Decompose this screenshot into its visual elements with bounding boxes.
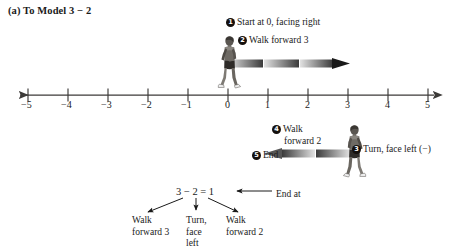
tick-label-4: 4 [385, 99, 390, 110]
step-3-badge: 3 [352, 145, 361, 154]
leaf-mid-line3: left [186, 238, 207, 250]
tick-label-2: 2 [305, 99, 310, 110]
leaf-left-line2: forward 3 [132, 227, 169, 239]
step-2-badge: 2 [238, 36, 247, 45]
step-3-label: 3Turn, face left (−) [352, 144, 431, 155]
tree-leaf-walk-forward-2: Walk forward 2 [226, 215, 263, 238]
step-5-label: 5End [252, 150, 278, 161]
tick-label-0: 0 [225, 99, 230, 110]
step-4-text-line1: Walk [283, 124, 303, 134]
leaf-mid-line2: face [186, 227, 207, 239]
tree-leaf-turn-face-left: Turn, face left [186, 215, 207, 250]
step-2-label: 2Walk forward 3 [238, 35, 308, 46]
step-1-label: 1Start at 0, facing right [226, 17, 320, 28]
equation-text: 3 − 2 = 1 [176, 186, 214, 197]
step-2-text: Walk forward 3 [249, 35, 308, 45]
figure-root: (a) To Model 3 − 2 − [0, 0, 453, 252]
step-3-text: Turn, face left (−) [363, 144, 431, 154]
step-4-badge: 4 [272, 125, 281, 134]
tick-label--3: −3 [101, 99, 112, 110]
end-at-label: End at [276, 189, 301, 199]
tick-label-row: −5 −4 −3 −2 −1 0 1 2 3 4 5 [0, 99, 453, 113]
step-5-text: End [263, 150, 278, 160]
step-1-text: Start at 0, facing right [237, 17, 320, 27]
tick-label-5: 5 [425, 99, 430, 110]
leaf-right-line2: forward 2 [226, 227, 263, 239]
tick-label--5: −5 [21, 99, 32, 110]
tree-leaf-walk-forward-3: Walk forward 3 [132, 215, 169, 238]
tick-label--4: −4 [61, 99, 72, 110]
tick-label--1: −1 [181, 99, 192, 110]
step-4-label: 4Walk forward 2 [272, 124, 321, 147]
leaf-mid-line1: Turn, [186, 215, 207, 227]
tick-label--2: −2 [141, 99, 152, 110]
leaf-left-line1: Walk [132, 215, 169, 227]
tick-label-1: 1 [265, 99, 270, 110]
step-1-badge: 1 [226, 18, 235, 27]
leaf-right-line1: Walk [226, 215, 263, 227]
step-5-badge: 5 [252, 151, 261, 160]
figure-caption: (a) To Model 3 − 2 [8, 5, 91, 16]
step-4-text-line2: forward 2 [272, 136, 321, 148]
tick-label-3: 3 [345, 99, 350, 110]
